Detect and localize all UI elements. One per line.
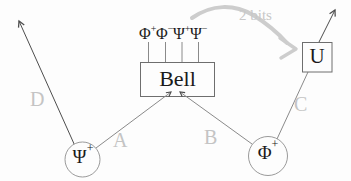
bell-outcome-phi-plus: Φ+	[139, 24, 156, 43]
bell-outcome-psi-minus: Ψ−	[190, 24, 207, 43]
left-source-label: Ψ+	[64, 145, 102, 168]
edge-label-d: D	[30, 88, 44, 111]
unitary-box-label: U	[302, 42, 332, 72]
edge-label-c: C	[294, 93, 307, 116]
u-output-arrow	[319, 10, 335, 42]
classical-channel-label: 2 bits	[239, 7, 272, 24]
bell-box-label: Bell	[140, 62, 215, 97]
bell-outcome-phi-minus: Φ−	[156, 24, 173, 43]
right-source-label: Φ+	[249, 141, 287, 164]
classical-channel-arrowhead-icon	[280, 38, 296, 58]
edge-d-line	[19, 21, 75, 146]
edge-label-b: B	[204, 126, 217, 149]
edge-label-a: A	[113, 129, 127, 152]
entanglement-swapping-diagram: Φ+ Φ− Ψ+ Ψ− Bell U Ψ+ Φ+ A B C D 2 bits	[0, 0, 351, 181]
bell-outcome-psi-plus: Ψ+	[173, 24, 190, 43]
edge-a-line	[96, 92, 171, 148]
